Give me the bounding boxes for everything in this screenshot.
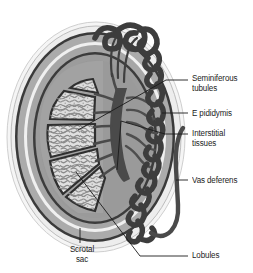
label-lobules: Lobules [192,251,219,261]
label-interstitial-tissues: Interstitial tissues [192,129,225,148]
label-scrotal-sac: Scrotal sac [63,245,101,264]
label-seminiferous-tubules: Seminiferous tubules [192,74,238,93]
label-epididymis: E pididymis [192,109,232,119]
label-vas-deferens: Vas deferens [192,176,237,186]
testis-anatomy-figure: Seminiferous tubules E pididymis Interst… [0,0,253,273]
